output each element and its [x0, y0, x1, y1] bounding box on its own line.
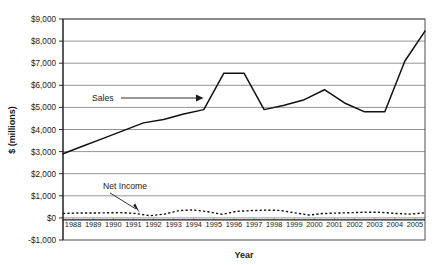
x-axis-tick-label: 2005: [407, 220, 423, 229]
x-axis-tick-label: 1993: [165, 220, 181, 229]
x-axis-tick-label: 1989: [85, 220, 101, 229]
x-axis-tick-label: 1997: [246, 220, 262, 229]
net-income-annotation-label: Net Income: [103, 181, 147, 191]
x-axis-tick-label: 1995: [206, 220, 222, 229]
x-axis-tick-label: 2001: [326, 220, 342, 229]
y-axis-tick-labels: -$1,000$0$1,000$2,000$3,000$4,000$5,000$…: [28, 15, 56, 245]
y-axis-tick-label: $6,000: [31, 81, 56, 90]
x-axis-tick-label: 1991: [125, 220, 141, 229]
x-axis-tick-label: 1990: [105, 220, 121, 229]
x-axis-tick-label: 1994: [185, 220, 201, 229]
x-axis-tick-label: 1996: [226, 220, 242, 229]
sales-net-income-line-chart: -$1,000$0$1,000$2,000$3,000$4,000$5,000$…: [0, 0, 441, 265]
x-axis-tick-label: 1988: [65, 220, 81, 229]
sales-annotation-label: Sales: [92, 93, 114, 103]
y-axis-tick-marks: [59, 19, 63, 240]
x-axis-tick-label: 1999: [286, 220, 302, 229]
y-axis-tick-label: $0: [47, 214, 57, 223]
y-axis-title: $ (millions): [7, 106, 17, 154]
x-axis-title: Year: [234, 250, 254, 260]
y-axis-tick-label: -$1,000: [28, 236, 56, 245]
x-axis-tick-label: 2000: [306, 220, 322, 229]
x-axis-tick-label: 2003: [366, 220, 382, 229]
y-axis-tick-label: $4,000: [31, 126, 56, 135]
x-axis-tick-label: 1992: [145, 220, 161, 229]
x-axis-title-label: Year: [234, 250, 254, 260]
y-axis-title-label: $ (millions): [7, 106, 17, 154]
x-axis-tick-label: 2004: [387, 220, 403, 229]
y-axis-tick-label: $3,000: [31, 148, 56, 157]
x-axis-tick-label: 2002: [346, 220, 362, 229]
chart-canvas: -$1,000$0$1,000$2,000$3,000$4,000$5,000$…: [0, 0, 441, 265]
y-axis-tick-label: $2,000: [31, 170, 56, 179]
y-axis-tick-label: $9,000: [31, 15, 56, 24]
x-axis-tick-label: 1998: [266, 220, 282, 229]
y-axis-tick-label: $1,000: [31, 192, 56, 201]
y-axis-tick-label: $8,000: [31, 37, 56, 46]
y-axis-tick-label: $7,000: [31, 59, 56, 68]
y-axis-tick-label: $5,000: [31, 103, 56, 112]
